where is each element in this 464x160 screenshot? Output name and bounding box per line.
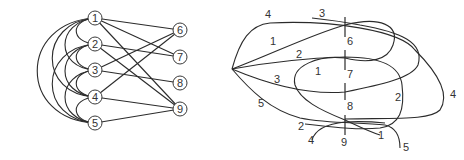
curve-label: 1 [270,35,276,47]
curve-label: 2 [395,91,401,103]
curve-label: 2 [298,120,304,132]
node-7: 7 [173,50,187,64]
svg-text:6: 6 [177,24,183,36]
tick-label-9: 9 [341,136,347,148]
tick-label-8: 8 [347,100,353,112]
diagram-canvas: 1 2 3 4 5 6 7 8 9 6 7 8 9 4 [0,0,464,160]
svg-text:8: 8 [177,77,183,89]
node-5: 5 [88,116,102,130]
curve-label: 2 [296,48,302,60]
node-2: 2 [88,37,102,51]
node-9: 9 [173,102,187,116]
curve-label: 4 [308,134,314,146]
left-graph-arcs [37,18,95,123]
right-graph-curves [232,18,444,148]
left-graph-edges [95,18,180,123]
curve-label: 5 [403,141,409,153]
curve-label: 5 [258,97,264,109]
tick-label-6: 6 [347,35,353,47]
svg-text:7: 7 [177,51,183,63]
svg-text:1: 1 [92,12,98,24]
node-3: 3 [88,63,102,77]
curve-label: 3 [274,73,280,85]
curve-label: 4 [450,88,456,100]
curve-label: 4 [265,8,271,20]
tick-label-7: 7 [347,68,353,80]
svg-text:5: 5 [92,117,98,129]
node-1: 1 [88,11,102,25]
svg-text:2: 2 [92,38,98,50]
svg-text:3: 3 [92,64,98,76]
node-8: 8 [173,76,187,90]
right-graph-curve-labels: 4 3 1 2 1 3 5 2 4 2 4 1 5 [258,7,456,153]
curve-label: 1 [378,129,384,141]
svg-text:9: 9 [177,103,183,115]
node-6: 6 [173,23,187,37]
curve-label: 3 [319,7,325,19]
node-4: 4 [88,90,102,104]
svg-text:4: 4 [92,91,98,103]
curve-label: 1 [315,65,321,77]
